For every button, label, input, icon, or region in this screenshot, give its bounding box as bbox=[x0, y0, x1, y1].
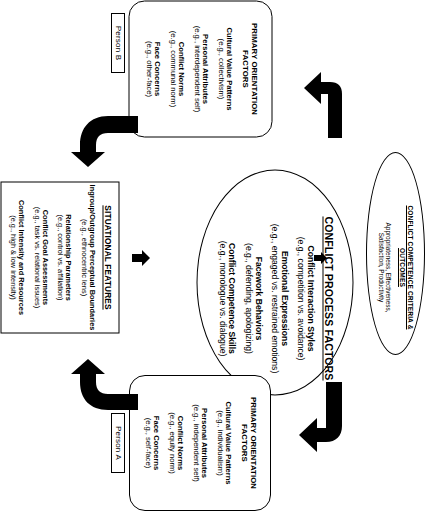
process-item-3: Conflict Competence Skills (e.g., monolo… bbox=[217, 241, 236, 357]
person-b-title-line2: FACTORS bbox=[239, 50, 248, 88]
outcomes-body: Appropriateness, Effectiveness, Satisfac… bbox=[377, 223, 391, 313]
person-b-item-2: Conflict Norms (e.g., communal norm) bbox=[167, 30, 184, 106]
person-b-tag-label: Person B bbox=[112, 14, 124, 72]
situational-item-2: Conflict Goal Assessments (e.g., task vs… bbox=[31, 206, 48, 307]
process-item-1: Emotional Expressions (e.g., engaged vs.… bbox=[269, 224, 288, 374]
conflict-process-factors-ellipse: CONFLICT PROCESS FACTORS Conflict Intera… bbox=[197, 170, 354, 396]
person-b-tag: Person B bbox=[111, 13, 125, 73]
arrow-process-to-outcomes-icon bbox=[313, 251, 328, 265]
person-a-title-line2: FACTORS bbox=[239, 424, 248, 462]
situational-item-1: Relationship Parameters (e.g., control v… bbox=[55, 214, 72, 301]
arrow-outcomes-to-person-a-icon bbox=[286, 382, 360, 462]
person-b-item-1: Personal Attributes (e.g., interdependen… bbox=[191, 25, 208, 112]
process-title: CONFLICT PROCESS FACTORS bbox=[322, 216, 334, 380]
person-a-title-line1: PRIMARY ORIENTATION bbox=[248, 397, 257, 489]
arrow-situational-to-process-icon bbox=[131, 249, 151, 267]
situational-features-box: SITUATIONAL FEATURES Ingroup/Outgroup Pe… bbox=[0, 181, 119, 333]
process-item-0: Conflict Interaction Styles (e.g., compe… bbox=[295, 237, 314, 361]
person-b-item-3: Face Concerns (e.g., other-face) bbox=[143, 40, 160, 96]
outcomes-title-line2: OUTCOMES bbox=[399, 248, 406, 287]
outcomes-title-line1: CONFLICT COMPETENCE CRITERIA & bbox=[406, 205, 413, 329]
conflict-competence-outcomes-ellipse: CONFLICT COMPETENCE CRITERIA & OUTCOMES … bbox=[366, 152, 425, 355]
arrow-person-a-to-situational-icon bbox=[64, 358, 138, 424]
situational-item-3: Conflict Intensity and Resources (e.g., … bbox=[8, 200, 25, 315]
person-a-item-2: Conflict Norms (e.g., equity norm) bbox=[167, 412, 184, 474]
situational-item-0: Ingroup/Outgroup Perceptual Boundaries (… bbox=[78, 184, 95, 330]
person-b-item-0: Cultural Value Patterns (e.g., collectiv… bbox=[215, 27, 232, 110]
arrow-outcomes-to-person-b-icon bbox=[288, 62, 358, 138]
arrow-person-b-to-situational-icon bbox=[64, 102, 138, 168]
person-b-orientation-box: PRIMARY ORIENTATION FACTORS Cultural Val… bbox=[128, 0, 272, 137]
situational-title: SITUATIONAL FEATURES bbox=[102, 205, 111, 309]
person-a-orientation-box: PRIMARY ORIENTATION FACTORS Cultural Val… bbox=[129, 375, 271, 511]
person-a-item-0: Cultural Value Patterns (e.g., individua… bbox=[215, 401, 232, 484]
process-item-2: Facework Behaviors (e.g., defending, apo… bbox=[243, 243, 262, 354]
person-a-item-3: Face Concerns (e.g., self-face) bbox=[143, 416, 160, 470]
person-a-item-1: Personal Attributes (e.g., independent s… bbox=[191, 404, 208, 482]
